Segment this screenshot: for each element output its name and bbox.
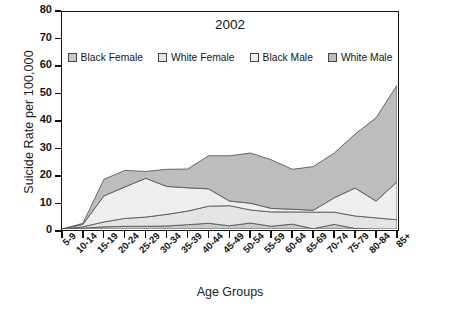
y-tick-label: 20	[40, 168, 52, 180]
y-tick-mark	[55, 10, 61, 12]
y-tick-mark	[55, 203, 61, 205]
legend-item-white-male: White Male	[328, 52, 393, 63]
area-series-svg	[62, 12, 397, 229]
y-tick-mark	[55, 93, 61, 95]
legend-swatch-white-female	[158, 53, 167, 62]
chart-title: 2002	[61, 17, 399, 32]
plot-area	[61, 11, 399, 231]
y-tick-label: 0	[46, 223, 52, 235]
y-tick-label: 10	[40, 196, 52, 208]
y-tick-label: 40	[40, 113, 52, 125]
y-tick-label: 30	[40, 141, 52, 153]
y-tick-mark	[55, 38, 61, 40]
y-axis-title: Suicide Rate per 100,000	[22, 17, 36, 227]
y-tick-label: 70	[40, 31, 52, 43]
legend-swatch-black-female	[68, 53, 77, 62]
legend-item-black-male: Black Male	[250, 52, 313, 63]
legend-label-black-male: Black Male	[263, 52, 313, 63]
y-tick-mark	[55, 120, 61, 122]
legend-swatch-black-male	[250, 53, 259, 62]
legend-item-black-female: Black Female	[68, 52, 143, 63]
chart-figure: Suicide Rate per 100,000 2002 Black Fema…	[0, 0, 455, 311]
series-canvas	[62, 12, 398, 230]
legend-swatch-white-male	[328, 53, 337, 62]
y-tick-mark	[55, 175, 61, 177]
y-tick-mark	[55, 148, 61, 150]
y-tick-label: 60	[40, 58, 52, 70]
legend-label-white-female: White Female	[171, 52, 235, 63]
y-tick-mark	[55, 65, 61, 67]
legend-item-white-female: White Female	[158, 52, 235, 63]
chart-legend: Black Female White Female Black Male Whi…	[61, 52, 399, 63]
y-tick-label: 50	[40, 86, 52, 98]
x-axis-title: Age Groups	[61, 285, 399, 299]
legend-label-black-female: Black Female	[81, 52, 143, 63]
y-tick-label: 80	[40, 3, 52, 15]
legend-label-white-male: White Male	[341, 52, 393, 63]
